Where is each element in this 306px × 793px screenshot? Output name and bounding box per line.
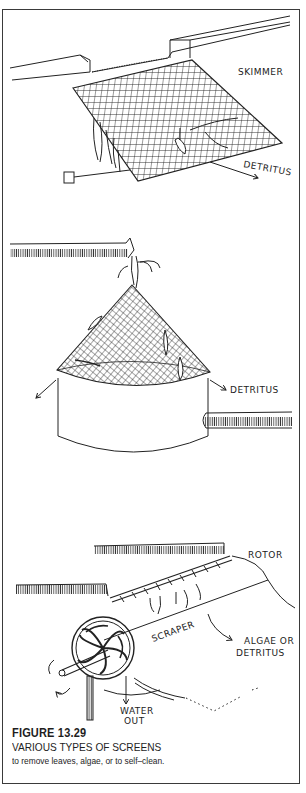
- figure-number: FIGURE 13.29: [12, 726, 258, 740]
- figure-title: VARIOUS TYPES OF SCREENS: [12, 741, 258, 753]
- rotor-label: ROTOR: [248, 550, 283, 560]
- figure-subtitle: to remove leaves, algae, or to self–clea…: [12, 755, 258, 766]
- figure-illustrations: SKIMMER DETRITUS DETRITUS: [0, 0, 306, 793]
- cone-detritus-label: DETRITUS: [230, 385, 279, 395]
- skimmer-illustration: [10, 16, 290, 183]
- scraper-label: SCRAPER: [150, 619, 196, 644]
- figure-caption: FIGURE 13.29 VARIOUS TYPES OF SCREENS to…: [12, 726, 292, 766]
- skimmer-label: SKIMMER: [238, 67, 283, 77]
- water-out-label-line2: OUT: [124, 716, 145, 726]
- algae-label-line2: DETRITUS: [236, 648, 285, 658]
- skimmer-detritus-label: DETRITUS: [243, 159, 293, 177]
- cone-screen-illustration: [10, 238, 292, 452]
- rotor-screen-illustration: [16, 543, 295, 720]
- algae-label-line1: ALGAE OR: [244, 636, 294, 646]
- water-out-label-line1: WATER: [120, 706, 154, 716]
